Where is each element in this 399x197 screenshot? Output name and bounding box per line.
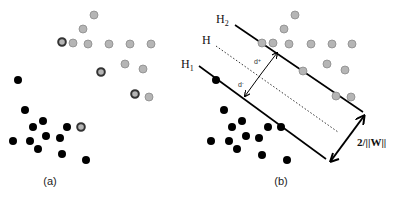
black-point (34, 145, 42, 153)
gray-point (105, 40, 113, 48)
gray-point (121, 60, 129, 68)
black-point (264, 123, 272, 131)
black-point (58, 150, 66, 158)
gray-point (147, 40, 155, 48)
support-vector-point (77, 123, 85, 131)
black-point (21, 106, 29, 114)
black-point (29, 123, 37, 131)
support-vector-point (97, 68, 105, 76)
black-point (277, 123, 285, 131)
black-point (56, 134, 64, 142)
label-h: H (202, 33, 211, 47)
black-point (238, 117, 246, 125)
caption-b: (b) (274, 175, 287, 187)
gray-point (291, 11, 299, 19)
support-vector-point (131, 90, 139, 98)
black-point (63, 123, 71, 131)
gray-point (341, 66, 349, 74)
margin-label: 2/||W|| (357, 136, 386, 148)
gray-point (299, 67, 307, 75)
black-point (26, 137, 34, 145)
black-point (233, 145, 241, 153)
label-h1: H1 (181, 57, 194, 73)
gray-point (69, 39, 77, 47)
label-d-minus: d- (238, 80, 244, 88)
black-point (14, 76, 22, 84)
black-point (225, 137, 233, 145)
label-d-plus: d+ (254, 57, 261, 65)
caption-a: (a) (43, 175, 56, 187)
panel-b (199, 11, 364, 164)
gray-point (307, 40, 315, 48)
gray-point (269, 39, 277, 47)
gray-point (258, 39, 266, 47)
gray-point (280, 25, 288, 33)
svm-diagram: (a) H2 H H1 d+ d- 2/||W|| (b) (0, 0, 399, 197)
black-point (39, 117, 47, 125)
support-vector-point (58, 38, 66, 46)
gray-point (84, 40, 92, 48)
black-point (42, 132, 50, 140)
panel-a (9, 11, 155, 164)
black-point (258, 151, 266, 159)
black-point (212, 76, 220, 84)
d-minus-arrow (245, 74, 261, 96)
gray-point (332, 92, 340, 100)
label-h2: H2 (216, 12, 229, 28)
gray-point (139, 65, 147, 73)
gray-point (126, 40, 134, 48)
gray-point (348, 40, 356, 48)
black-point (283, 156, 291, 164)
gray-point (347, 93, 355, 101)
black-point (207, 137, 215, 145)
hyperplane-h (216, 46, 338, 132)
gray-point (323, 60, 331, 68)
black-point (228, 123, 236, 131)
black-point (242, 132, 250, 140)
black-point (9, 137, 17, 145)
black-point (255, 134, 263, 142)
d-plus-arrow (261, 53, 277, 74)
black-point (220, 106, 228, 114)
gray-point (145, 93, 153, 101)
gray-point (79, 25, 87, 33)
gray-point (285, 40, 293, 48)
gray-point (90, 11, 98, 19)
black-point (82, 156, 90, 164)
gray-point (328, 40, 336, 48)
